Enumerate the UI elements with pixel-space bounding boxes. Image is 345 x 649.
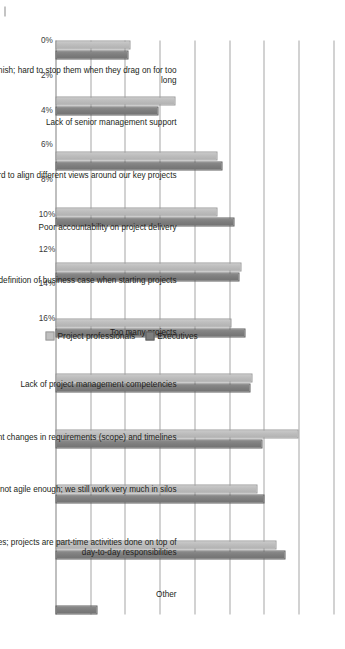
chart-canvas: 0%2%4%6%8%10%12%14%16% Projects rarely f… bbox=[0, 0, 345, 649]
category-label: Other bbox=[1, 564, 53, 614]
legend-label: Project professionals bbox=[57, 330, 135, 340]
chart-legend: Project professionalsExecutives bbox=[45, 330, 197, 340]
category-label: Poor accountability on project delivery bbox=[1, 197, 53, 247]
category-label-text: Lack of senior management support bbox=[0, 117, 176, 127]
category-label: Hard to align different views around our… bbox=[1, 145, 53, 195]
category-label: Too many projects bbox=[1, 302, 53, 352]
legend-label: Executives bbox=[157, 330, 198, 340]
category-label-text: Poor definition of business case when st… bbox=[0, 275, 176, 285]
legend-item[interactable]: Project professionals bbox=[45, 330, 135, 340]
bar-chart: 0%2%4%6%8%10%12%14%16% Projects rarely f… bbox=[0, 0, 345, 649]
category-label: Projects rarely finish; hard to stop the… bbox=[1, 40, 53, 90]
category-label: Lack of project management competencies bbox=[1, 354, 53, 404]
category-label-text: Lack of resources; projects are part-tim… bbox=[0, 537, 176, 556]
category-label: Lack of senior management support bbox=[1, 92, 53, 142]
legend-swatch-project-professionals bbox=[45, 331, 54, 340]
category-label-text: Lack of project management competencies bbox=[0, 379, 176, 389]
category-label-text: Projects rarely finish; hard to stop the… bbox=[0, 65, 176, 84]
category-labels: Projects rarely finish; hard to stop the… bbox=[1, 40, 53, 614]
category-label-text: Poor accountability on project delivery bbox=[0, 222, 176, 232]
bar-project-professionals[interactable] bbox=[55, 262, 241, 271]
category-label-text: Hard to align different views around our… bbox=[0, 170, 176, 180]
bar-executives[interactable] bbox=[55, 605, 97, 614]
category-label: Poor definition of business case when st… bbox=[1, 250, 53, 300]
corner-mark bbox=[4, 6, 5, 16]
bar-project-professionals[interactable] bbox=[55, 96, 175, 105]
bar-executives[interactable] bbox=[55, 161, 222, 170]
category-label: Our culture is not agile enough; we stil… bbox=[1, 459, 53, 509]
bar-executives[interactable] bbox=[55, 106, 158, 115]
category-label-text: Frequent changes in requirements (scope)… bbox=[0, 432, 176, 442]
bar-project-professionals[interactable] bbox=[55, 151, 217, 160]
category-label-text: Other bbox=[0, 589, 176, 599]
bar-project-professionals[interactable] bbox=[55, 207, 217, 216]
bar-group bbox=[55, 40, 333, 59]
bar-group bbox=[55, 151, 333, 170]
category-label-text: Our culture is not agile enough; we stil… bbox=[0, 484, 176, 494]
category-label: Frequent changes in requirements (scope)… bbox=[1, 407, 53, 457]
bar-executives[interactable] bbox=[55, 494, 264, 503]
legend-swatch-executives bbox=[145, 331, 154, 340]
category-label: Lack of resources; projects are part-tim… bbox=[1, 512, 53, 562]
legend-item[interactable]: Executives bbox=[145, 330, 198, 340]
rotated-chart-container: 0%2%4%6%8%10%12%14%16% Projects rarely f… bbox=[0, 0, 345, 649]
bar-project-professionals[interactable] bbox=[55, 318, 231, 327]
bar-group bbox=[55, 96, 333, 115]
bar-project-professionals[interactable] bbox=[55, 40, 130, 49]
bar-executives[interactable] bbox=[55, 50, 128, 59]
